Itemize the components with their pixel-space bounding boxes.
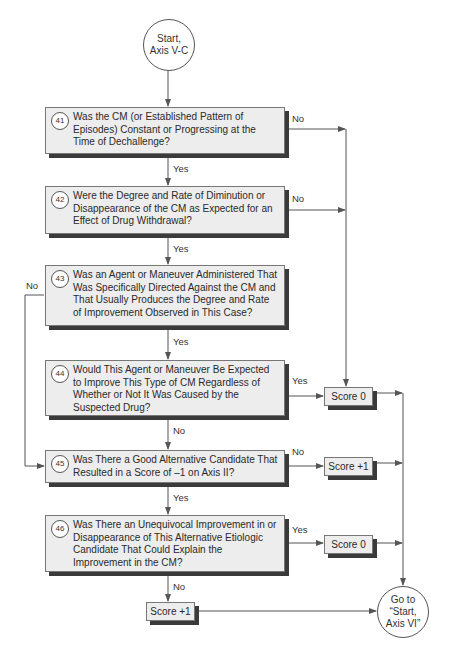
start-label-line1: Start, xyxy=(150,33,188,45)
question-text: Were the Degree and Rate of Diminution o… xyxy=(73,190,278,228)
score-plus1-box: Score +1 xyxy=(146,602,195,621)
edge-label-44-yes: Yes xyxy=(292,375,308,386)
question-text: Was There an Unequivocal Improvement in … xyxy=(73,519,278,569)
question-number-badge: 46 xyxy=(51,520,69,538)
edge-label-42-yes: Yes xyxy=(173,243,189,254)
question-text: Was the CM (or Established Pattern of Ep… xyxy=(73,111,278,149)
question-42-box: 42 Were the Degree and Rate of Diminutio… xyxy=(45,186,285,234)
question-number-badge: 42 xyxy=(51,191,69,209)
question-44-box: 44 Would This Agent or Maneuver Be Expec… xyxy=(45,360,285,416)
end-label-line2: “Start, xyxy=(386,606,420,618)
question-number-badge: 44 xyxy=(51,365,69,383)
score-0-box: Score 0 xyxy=(324,535,373,554)
edge-label-41-yes: Yes xyxy=(173,163,189,174)
edge-label-45-no: No xyxy=(292,446,304,457)
question-number-badge: 41 xyxy=(51,112,69,130)
edge-label-46-no: No xyxy=(173,581,185,592)
question-text: Was an Agent or Maneuver Administered Th… xyxy=(73,269,278,319)
end-node: Go to “Start, Axis VI” xyxy=(377,586,429,638)
score-plus1-box: Score +1 xyxy=(324,457,373,476)
edge-label-44-no: No xyxy=(173,425,185,436)
start-node: Start, Axis V-C xyxy=(143,19,195,71)
question-text: Would This Agent or Maneuver Be Expected… xyxy=(73,364,278,414)
edge-label-45-yes: Yes xyxy=(173,492,189,503)
question-41-box: 41 Was the CM (or Established Pattern of… xyxy=(45,107,285,154)
question-43-box: 43 Was an Agent or Maneuver Administered… xyxy=(45,265,285,326)
edge-label-46-yes: Yes xyxy=(292,524,308,535)
edge-label-43-no: No xyxy=(26,280,38,291)
question-number-badge: 45 xyxy=(51,455,69,473)
edge-label-43-yes: Yes xyxy=(173,336,189,347)
question-45-box: 45 Was There a Good Alternative Candidat… xyxy=(45,450,285,483)
end-label-line1: Go to xyxy=(386,594,420,606)
edge-label-41-no: No xyxy=(292,113,304,124)
question-number-badge: 43 xyxy=(51,270,69,288)
start-label-line2: Axis V-C xyxy=(150,45,188,57)
edge-label-42-no: No xyxy=(292,193,304,204)
score-0-box: Score 0 xyxy=(324,387,373,406)
question-text: Was There a Good Alternative Candidate T… xyxy=(73,454,278,479)
end-label-line3: Axis VI” xyxy=(386,618,420,630)
question-46-box: 46 Was There an Unequivocal Improvement … xyxy=(45,515,285,572)
